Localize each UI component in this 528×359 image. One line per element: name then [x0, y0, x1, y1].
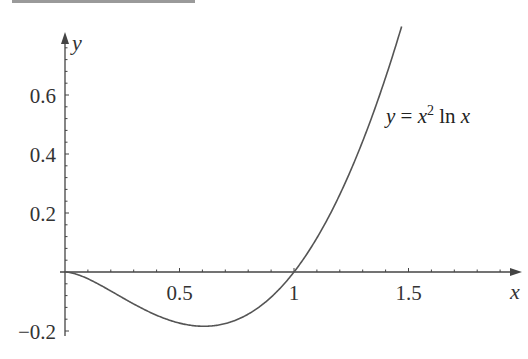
x-tick-label: 1.5 [395, 281, 421, 305]
y-tick-label: 0.2 [30, 202, 56, 226]
function-annotation: y = x2 ln x [384, 103, 471, 128]
y-axis-arrow-icon [61, 32, 69, 44]
y-tick-label: 0.6 [30, 84, 56, 108]
function-curve [65, 26, 402, 326]
function-plot: 0.511.5 0.60.40.2−0.2 x y y = x2 ln x [0, 0, 528, 359]
x-axis-label: x [509, 279, 520, 304]
x-axis-arrow-icon [510, 268, 522, 276]
y-axis-label: y [70, 30, 82, 55]
y-tick-label: −0.2 [18, 320, 56, 344]
x-ticks: 0.511.5 [88, 268, 500, 305]
y-tick-label: 0.4 [30, 143, 57, 167]
axes: 0.511.5 0.60.40.2−0.2 x y [18, 30, 522, 344]
x-tick-label: 1 [289, 281, 300, 305]
x-tick-label: 0.5 [166, 281, 192, 305]
y-ticks: 0.60.40.2−0.2 [18, 48, 69, 344]
